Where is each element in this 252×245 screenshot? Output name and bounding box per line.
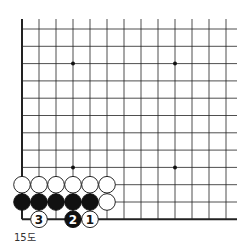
move-number-label: 1: [86, 213, 94, 227]
star-point: [71, 165, 75, 169]
white-stone: [99, 194, 116, 211]
star-point: [173, 165, 177, 169]
black-stone: [31, 194, 48, 211]
diagram-caption: 15도: [14, 229, 36, 244]
move-number-label: 3: [35, 213, 43, 227]
black-stone: [65, 194, 82, 211]
go-board: 123: [0, 0, 252, 245]
black-stone: [14, 194, 31, 211]
star-point: [173, 62, 177, 66]
black-stone: [82, 194, 99, 211]
white-stone: [65, 176, 82, 193]
white-stone: [99, 176, 116, 193]
white-stone: [14, 176, 31, 193]
white-stone: [31, 176, 48, 193]
white-stone: [48, 176, 65, 193]
black-stone: [48, 194, 65, 211]
move-number-label: 2: [69, 213, 77, 227]
white-stone: [82, 176, 99, 193]
star-point: [71, 62, 75, 66]
